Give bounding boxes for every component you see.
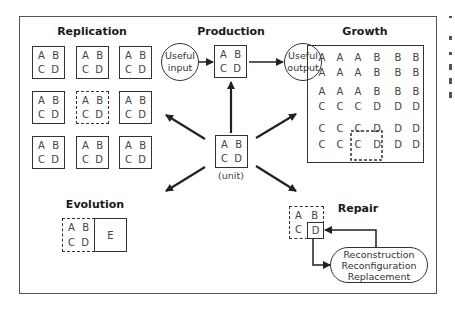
arrow-to-repair	[256, 166, 296, 191]
edge-fragment	[449, 16, 452, 18]
arrow-to-growth	[256, 114, 296, 138]
edge-fragment	[449, 92, 452, 98]
arrow-d-to-repair	[313, 239, 330, 265]
growth-original-unit-outline	[351, 131, 382, 160]
arrow-to-evolution	[166, 167, 205, 191]
edge-fragment	[449, 52, 452, 55]
edge-fragment	[449, 36, 452, 40]
edge-fragment	[449, 78, 452, 84]
edge-fragment	[449, 64, 452, 70]
arrow-to-replication	[166, 115, 205, 139]
arrows-layer	[0, 0, 455, 312]
arrow-repair-to-d	[325, 230, 376, 247]
